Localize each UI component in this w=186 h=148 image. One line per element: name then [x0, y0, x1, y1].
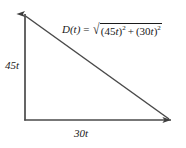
vertical-leg-label-text: 45t	[5, 59, 19, 71]
formula-function-name: D(t)	[62, 23, 80, 35]
formula-equals-sign: =	[83, 23, 89, 35]
horizontal-leg-label: 30t	[74, 128, 88, 139]
distance-formula: D(t) = √ (45t)2+(30t)2	[62, 23, 162, 37]
vertical-leg-label: 45t	[5, 60, 19, 71]
radical-sign-icon: √	[93, 23, 100, 37]
figure-canvas: 45t 30t D(t) = √ (45t)2+(30t)2	[0, 0, 186, 148]
term1-coefficient: 45	[104, 25, 115, 37]
term2-exponent: 2	[157, 24, 161, 32]
radical-group: √ (45t)2+(30t)2	[93, 23, 162, 37]
term2-coefficient: 30	[140, 25, 151, 37]
radicand-expression: (45t)2+(30t)2	[100, 23, 162, 37]
horizontal-leg-label-text: 30t	[74, 127, 88, 139]
term1-exponent: 2	[122, 24, 126, 32]
formula-plus-operator: +	[128, 25, 134, 37]
